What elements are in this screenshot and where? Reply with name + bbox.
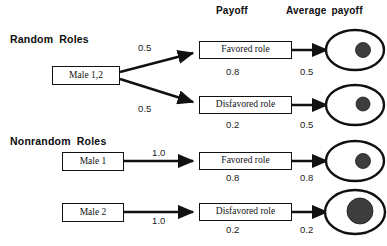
- average-payoff-value-random-favored: 0.5: [300, 66, 314, 77]
- payoff-value-nonrandom-favored: 0.8: [226, 172, 240, 183]
- outcome-ellipse-random-disfavored: [326, 85, 384, 125]
- node-male-2[interactable]: Male 2: [62, 203, 124, 222]
- payoff-value-nonrandom-disfavored: 0.2: [226, 224, 240, 235]
- node-male-1-2[interactable]: Male 1,2: [52, 66, 120, 85]
- average-payoff-value-nonrandom-favored: 0.8: [300, 172, 314, 183]
- payoff-value-random-disfavored: 0.2: [226, 119, 240, 130]
- probability-label-random-disfavored: 0.5: [138, 103, 152, 114]
- branch-random-disfavored: [120, 79, 193, 102]
- outcome-ellipse-random-favored: [326, 30, 384, 70]
- node-male-1[interactable]: Male 1: [62, 152, 124, 171]
- role-payoff-diagram: Payoff Average payoff Random Roles Nonra…: [0, 0, 387, 246]
- node-random-favored-role[interactable]: Favored role: [199, 41, 292, 59]
- payoff-value-random-favored: 0.8: [226, 66, 240, 77]
- node-nonrandom-disfavored-role[interactable]: Disfavored role: [199, 203, 292, 221]
- outcome-ellipse-nonrandom-favored: [326, 141, 384, 181]
- probability-label-random-favored: 0.5: [138, 42, 152, 53]
- probability-label-nonrandom-favored: 1.0: [152, 147, 166, 158]
- node-nonrandom-favored-role[interactable]: Favored role: [199, 152, 292, 170]
- branch-random-favored: [120, 53, 193, 72]
- average-payoff-value-random-disfavored: 0.5: [300, 119, 314, 130]
- diagram-connectors: [0, 0, 387, 246]
- node-random-disfavored-role[interactable]: Disfavored role: [199, 96, 292, 114]
- probability-label-nonrandom-disfavored: 1.0: [152, 215, 166, 226]
- outcome-ellipse-nonrandom-disfavored: [325, 190, 385, 234]
- average-payoff-value-nonrandom-disfavored: 0.2: [300, 224, 314, 235]
